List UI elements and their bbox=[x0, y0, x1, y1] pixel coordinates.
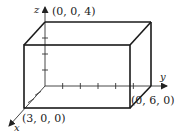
z-axis-label: z bbox=[33, 4, 40, 15]
x-axis-tick bbox=[35, 91, 41, 95]
edge-right-top bbox=[130, 22, 151, 45]
box-diagram: z y x (0, 0, 4) (3, 0, 0) (0, 6, 0) bbox=[0, 0, 176, 133]
vertex-label-z: (0, 0, 4) bbox=[52, 5, 96, 18]
x-axis-label: x bbox=[14, 122, 20, 133]
y-axis-label: y bbox=[159, 71, 166, 82]
axis-ticks bbox=[28, 38, 133, 103]
front-face bbox=[24, 45, 130, 108]
vertex-label-y: (0, 6, 0) bbox=[131, 94, 175, 107]
edge-left-top bbox=[24, 22, 45, 45]
vertex-label-x: (3, 0, 0) bbox=[22, 112, 66, 125]
